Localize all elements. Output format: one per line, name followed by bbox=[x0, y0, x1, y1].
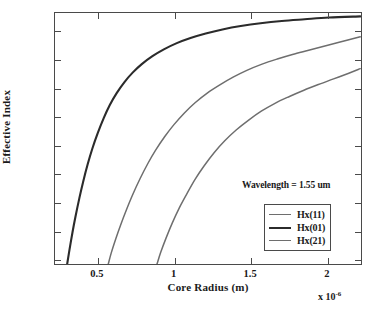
y-axis-tick bbox=[355, 260, 361, 261]
x-axis-tick bbox=[251, 13, 252, 19]
legend-item[interactable]: Hx(11) bbox=[269, 208, 325, 221]
x-axis-tick-label: 0.5 bbox=[72, 269, 122, 280]
x-axis-tick-label: 1.5 bbox=[225, 269, 275, 280]
x-axis-tick bbox=[98, 258, 99, 264]
y-axis-tick bbox=[355, 60, 361, 61]
legend-item-label: Hx(01) bbox=[297, 223, 325, 233]
x-axis-tick bbox=[328, 258, 329, 264]
y-axis-tick bbox=[55, 203, 61, 204]
y-axis-tick bbox=[355, 89, 361, 90]
legend-item[interactable]: Hx(01) bbox=[269, 221, 325, 234]
y-axis-tick bbox=[55, 117, 61, 118]
y-axis-tick bbox=[355, 203, 361, 204]
y-axis-label-text: Effective Index bbox=[0, 89, 12, 163]
x-axis-multiplier: x 10-6 bbox=[318, 291, 341, 302]
y-axis-tick bbox=[355, 31, 361, 32]
x-axis-label: Core Radius (m) bbox=[54, 281, 362, 293]
legend-line-swatch bbox=[269, 240, 291, 241]
y-axis-tick bbox=[355, 117, 361, 118]
x-axis-tick bbox=[98, 13, 99, 19]
x-axis-tick-label: 1 bbox=[149, 269, 199, 280]
y-axis-label: Effective Index bbox=[0, 0, 14, 253]
y-axis-tick bbox=[55, 60, 61, 61]
legend-item-label: Hx(21) bbox=[297, 236, 325, 246]
y-axis-tick bbox=[355, 232, 361, 233]
y-axis-tick bbox=[55, 232, 61, 233]
legend-box: Hx(11)Hx(01)Hx(21) bbox=[264, 204, 331, 251]
y-axis-tick bbox=[355, 174, 361, 175]
y-axis-tick bbox=[55, 146, 61, 147]
y-axis-tick bbox=[355, 146, 361, 147]
y-axis-tick bbox=[55, 31, 61, 32]
x-axis-tick bbox=[175, 258, 176, 264]
legend-item[interactable]: Hx(21) bbox=[269, 234, 325, 247]
x-axis-multiplier-base: x 10 bbox=[318, 291, 336, 302]
x-axis-tick bbox=[175, 13, 176, 19]
wavelength-annotation: Wavelength = 1.55 um bbox=[242, 181, 330, 191]
legend-line-swatch bbox=[269, 214, 291, 215]
x-axis-multiplier-exponent: -6 bbox=[336, 290, 342, 298]
y-axis-tick bbox=[55, 260, 61, 261]
x-axis-tick bbox=[251, 258, 252, 264]
y-axis-tick bbox=[55, 89, 61, 90]
x-axis-tick-label: 2 bbox=[302, 269, 352, 280]
legend-line-swatch bbox=[269, 227, 291, 229]
figure-canvas: Effective Index Core Radius (m) x 10-6 W… bbox=[0, 0, 377, 310]
x-axis-tick bbox=[328, 13, 329, 19]
y-axis-tick bbox=[55, 174, 61, 175]
legend-item-label: Hx(11) bbox=[297, 210, 325, 220]
